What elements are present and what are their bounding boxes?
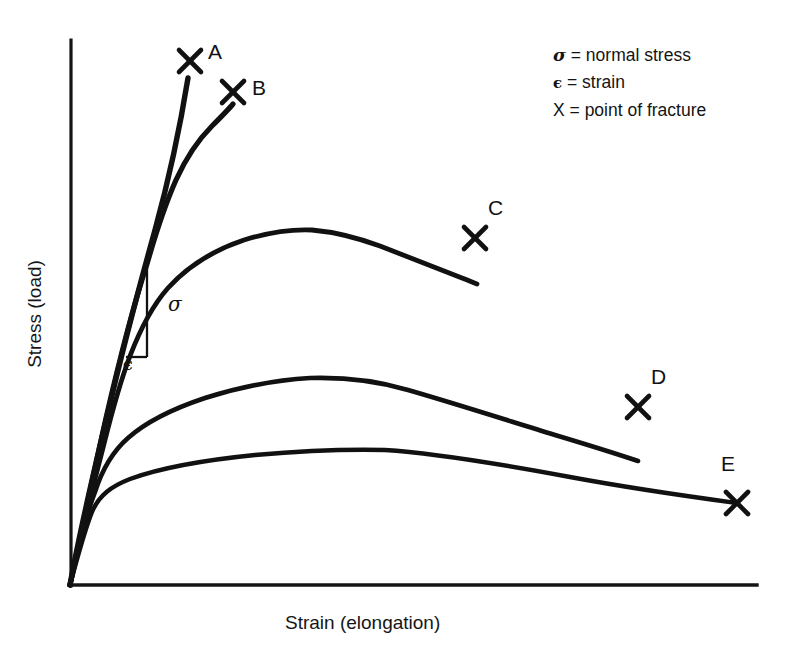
- legend-sep-1: =: [562, 72, 582, 92]
- legend-text-2: point of fracture: [585, 100, 707, 120]
- legend-item-sigma: σ = normal stress: [553, 42, 706, 69]
- curve-label-B: B: [252, 76, 266, 100]
- legend-text-0: normal stress: [586, 45, 691, 65]
- legend-item-fracture: X = point of fracture: [553, 97, 706, 124]
- curve-label-C: C: [488, 196, 503, 220]
- y-axis-label: Stress (load): [24, 234, 46, 394]
- curve-label-A: A: [208, 40, 222, 64]
- curve-label-E: E: [721, 452, 735, 476]
- sigma-annotation-label: σ: [168, 292, 182, 316]
- legend-item-epsilon: ϵ = strain: [553, 69, 706, 97]
- x-axis-label: Strain (elongation): [285, 612, 440, 634]
- curve-label-D: D: [651, 365, 666, 389]
- legend-sep-0: =: [566, 45, 586, 65]
- legend-sep-2: =: [565, 100, 585, 120]
- sigma-symbol: σ: [553, 45, 566, 65]
- fracture-x-symbol: X: [553, 100, 565, 120]
- epsilon-annotation-label: ϵ: [123, 355, 133, 374]
- epsilon-symbol: ϵ: [553, 74, 562, 92]
- legend-text-1: strain: [582, 72, 625, 92]
- legend: σ = normal stress ϵ = strain X = point o…: [553, 42, 706, 124]
